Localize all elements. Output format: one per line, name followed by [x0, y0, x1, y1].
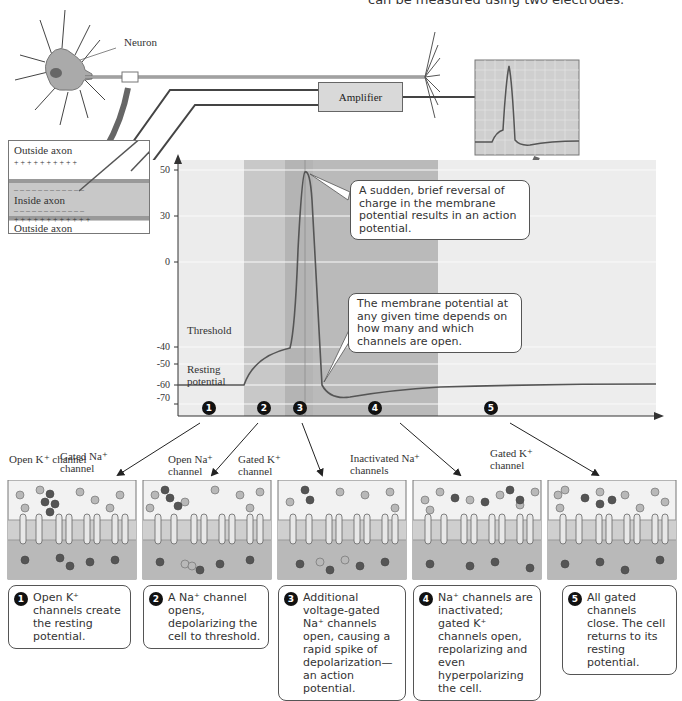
phase-badge-4: 4 — [368, 401, 382, 415]
callout-channels: The membrane potential at any given time… — [348, 293, 522, 353]
step-badge-2: 2 — [149, 592, 163, 606]
phase-badge-3: 3 — [293, 401, 307, 415]
step-badge-5: 5 — [568, 592, 582, 606]
callout-spike: A sudden, brief reversal of charge in th… — [350, 180, 530, 240]
label-gated-k-channel-4: Gated K⁺ channel — [490, 447, 540, 471]
panel-caption-1-text: Open K⁺ channels create the resting pote… — [33, 591, 121, 643]
ytick-50: 50 — [148, 164, 170, 175]
label-gated-k-channel-2: Gated K⁺ channel — [238, 453, 288, 477]
recording-apparatus-diagram — [0, 0, 682, 160]
resting-potential-label: Resting potential — [187, 363, 237, 387]
panel-caption-4-text: Na⁺ channels are inactivated; gated K⁺ c… — [438, 591, 533, 695]
panel-caption-4: 4 Na⁺ channels are inactivated; gated K⁺… — [413, 585, 541, 701]
label-gated-na-channel: Gated Na⁺ channel — [60, 450, 120, 474]
panel-caption-5: 5 All gated channels close. The cell ret… — [562, 585, 677, 675]
threshold-label: Threshold — [187, 324, 232, 336]
label-open-na-channel: Open Na⁺ channel — [168, 453, 218, 477]
ytick-neg70: -70 — [148, 392, 170, 403]
step-badge-4: 4 — [419, 592, 433, 606]
ytick-neg40: -40 — [148, 341, 170, 352]
panel-4 — [413, 480, 541, 579]
ytick-30: 30 — [148, 210, 170, 221]
panel-3 — [278, 480, 406, 579]
amplifier-box: Amplifier — [318, 82, 403, 112]
axon-inset: Outside axon + + + + + + + + + + – – – –… — [8, 140, 150, 234]
oscilloscope-icon — [475, 60, 579, 155]
neuron-label: Neuron — [124, 36, 157, 48]
panel-caption-2-text: A Na⁺ channel opens, depolarizing the ce… — [168, 591, 260, 643]
panel-caption-2: 2 A Na⁺ channel opens, depolarizing the … — [143, 585, 269, 649]
ytick-0: 0 — [148, 256, 170, 267]
panel-caption-5-text: All gated channels close. The cell retur… — [587, 591, 665, 669]
step-badge-1: 1 — [14, 592, 28, 606]
label-inactivated-na-channels: Inactivated Na⁺ channels — [350, 452, 430, 476]
panel-5 — [548, 480, 676, 579]
panel-2 — [143, 480, 271, 579]
ytick-neg60: -60 — [148, 379, 170, 390]
panel-1 — [8, 480, 136, 579]
phase-badge-5: 5 — [484, 401, 498, 415]
neuron-icon — [15, 10, 105, 125]
phase-badge-2: 2 — [257, 401, 271, 415]
panel-caption-3-text: Additional voltage-gated Na⁺ channels op… — [303, 591, 392, 695]
step-badge-3: 3 — [284, 592, 298, 606]
panel-caption-1: 1 Open K⁺ channels create the resting po… — [8, 585, 131, 649]
panel-caption-3: 3 Additional voltage-gated Na⁺ channels … — [278, 585, 406, 701]
phase-badge-1: 1 — [202, 401, 216, 415]
ytick-neg50: -50 — [148, 358, 170, 369]
channel-panels — [0, 480, 682, 580]
